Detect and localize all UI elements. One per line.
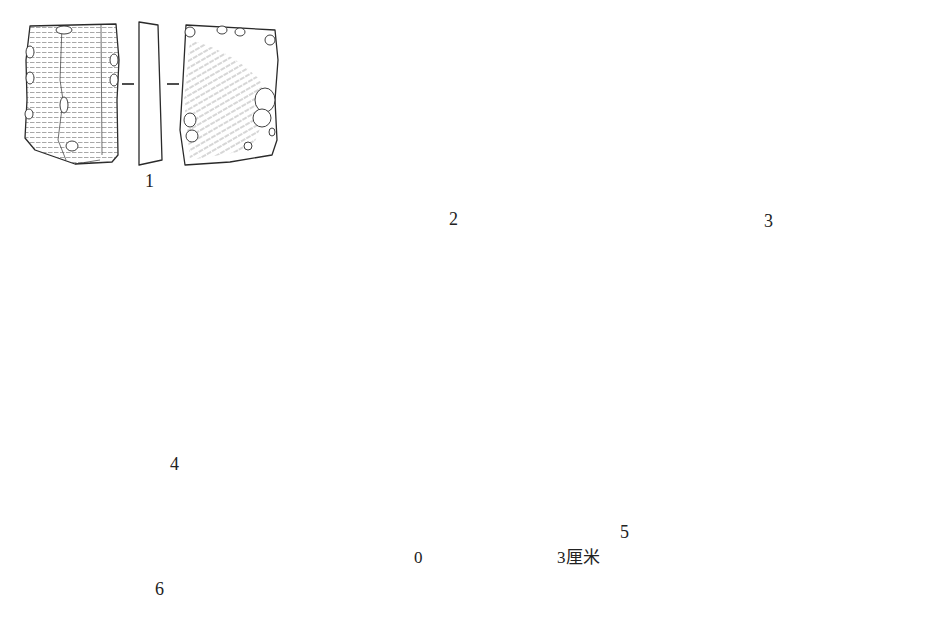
scale-bar-start-label: 0 [414,549,423,566]
artifact-1-ventral-view [180,25,278,165]
artifact-1-label: 1 [145,172,154,190]
artifact-drawing-canvas [0,0,934,620]
artifact-2-label: 2 [449,210,458,228]
artifact-4-label: 4 [170,455,179,473]
artifact-6-label: 6 [155,580,164,598]
artifact-3-label: 3 [764,212,773,230]
artifact-5-label: 5 [620,523,629,541]
artifact-1-section-view [139,22,162,165]
artifact-1-dorsal-view [25,24,119,164]
scale-bar-end-label: 3厘米 [557,549,600,566]
artifact-1 [25,22,278,165]
